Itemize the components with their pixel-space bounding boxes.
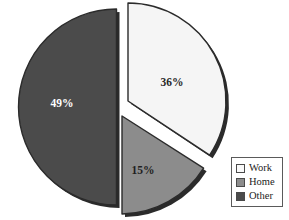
legend-swatch-home: [236, 178, 245, 187]
pie-slice-other[interactable]: 49%: [19, 9, 120, 208]
legend-label-other: Other: [249, 190, 273, 202]
chart-legend: Work Home Other: [231, 157, 283, 207]
legend-swatch-work: [236, 164, 245, 173]
pie-slice-work-label: 36%: [161, 76, 184, 88]
legend-item-home[interactable]: Home: [236, 175, 278, 189]
pie-slice-other-label: 49%: [51, 97, 74, 109]
legend-label-home: Home: [249, 176, 275, 188]
pie-slice-home-label: 15%: [132, 164, 155, 176]
legend-swatch-other: [236, 192, 245, 201]
legend-label-work: Work: [249, 162, 272, 174]
legend-item-other[interactable]: Other: [236, 189, 278, 203]
pie-chart-figure: 49% 36% 15% Work Home Other: [0, 0, 289, 220]
legend-item-work[interactable]: Work: [236, 161, 278, 175]
